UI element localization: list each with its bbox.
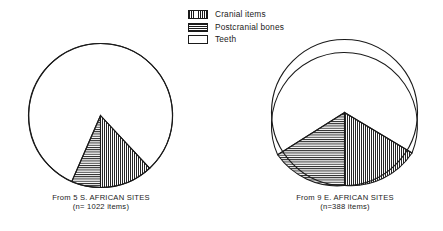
caption-line1-east-african: From 9 E. AFRICAN SITES: [254, 193, 436, 202]
caption-line2-south-african: (n= 1022 items): [10, 202, 192, 211]
caption-south-african: From 5 S. AFRICAN SITES (n= 1022 items): [10, 193, 192, 212]
legend-item-cranial: Cranial items: [188, 9, 308, 21]
legend-swatch-cranial-icon: [188, 10, 208, 19]
pie-east-african-svg: [267, 40, 422, 195]
figure-pie-charts: Cranial items Postcranial bones Teeth: [0, 0, 443, 231]
legend-label-teeth: Teeth: [215, 35, 236, 44]
legend-swatch-teeth-icon: [188, 35, 208, 44]
legend-label-cranial: Cranial items: [215, 10, 266, 19]
caption-line1-south-african: From 5 S. AFRICAN SITES: [10, 193, 192, 202]
caption-line2-east-african: (n=388 items): [254, 202, 436, 211]
legend-swatch-postcranial-icon: [188, 23, 208, 32]
pie-chart-east-african: [267, 40, 422, 195]
legend-label-postcranial: Postcranial bones: [215, 23, 284, 32]
caption-east-african: From 9 E. AFRICAN SITES (n=388 items): [254, 193, 436, 212]
legend-item-postcranial: Postcranial bones: [188, 22, 308, 34]
pie-south-african-svg: [24, 39, 177, 192]
pie-chart-south-african: [24, 39, 177, 192]
